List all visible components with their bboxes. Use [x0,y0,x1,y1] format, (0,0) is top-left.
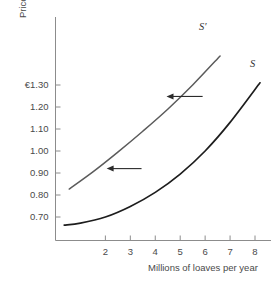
x-axis-ticks: 2345678 [103,236,258,257]
shift-arrow-upper-head [166,93,173,99]
y-tick-label: 1.00 [30,145,49,156]
x-tick-label: 8 [252,246,257,257]
supply-curve-s [64,83,260,225]
shift-arrows [107,93,203,171]
x-tick-label: 3 [128,246,133,257]
supply-curve-s-prime [69,56,220,189]
y-axis-title: Price per loaf [17,0,28,18]
x-tick-label: 6 [202,246,207,257]
curve-label-s-prime: S′ [199,21,207,32]
y-tick-label: 0.90 [30,167,49,178]
y-tick-label: 1.20 [30,101,49,112]
x-axis-title: Millions of loaves per year [148,262,258,273]
curve-label-s: S [250,58,256,69]
x-tick-label: 2 [103,246,108,257]
chart-svg: €1.301.201.101.000.900.800.70 2345678 S′… [0,0,277,283]
x-tick-label: 7 [227,246,232,257]
axes [56,17,272,241]
supply-curve-chart: €1.301.201.101.000.900.800.70 2345678 S′… [0,0,277,283]
shift-arrow-lower-head [107,166,114,172]
y-tick-label: €1.30 [25,79,49,90]
y-tick-label: 0.70 [30,211,49,222]
x-tick-label: 5 [178,246,183,257]
y-tick-label: 0.80 [30,189,49,200]
y-tick-label: 1.10 [30,123,49,134]
data-curves [64,56,260,225]
x-tick-label: 4 [153,246,158,257]
